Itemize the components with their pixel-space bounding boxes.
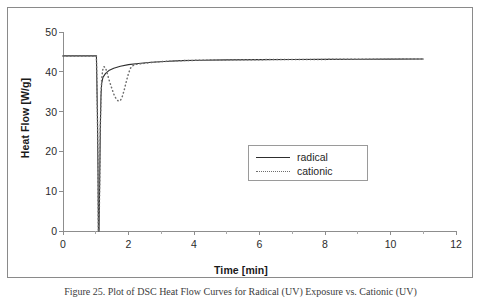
plot-area: 01020304050 024681012: [63, 32, 456, 231]
x-axis-title: Time [min]: [8, 264, 474, 276]
series-paths: [63, 56, 423, 231]
x-tick-label: 0: [60, 238, 66, 250]
axis-lines: [63, 32, 456, 231]
y-axis-title: Heat Flow [W/g]: [19, 53, 31, 183]
series-line-cationic: [63, 56, 423, 231]
y-tick-label: 30: [45, 106, 57, 118]
legend-swatch-dotted-icon: [256, 171, 290, 172]
series-line-radical: [63, 56, 423, 231]
plot-svg: [63, 32, 456, 231]
legend-label-cationic: cationic: [297, 165, 333, 177]
legend-label-radical: radical: [297, 151, 328, 163]
x-tick-label: 10: [385, 238, 397, 250]
x-tick-label: 6: [257, 238, 263, 250]
x-tick-label: 8: [322, 238, 328, 250]
figure-caption: Figure 25. Plot of DSC Heat Flow Curves …: [0, 286, 481, 297]
y-tick-label: 10: [45, 185, 57, 197]
x-tick-label: 12: [450, 238, 462, 250]
chart-frame: Heat Flow [W/g] Time [min] 01020304050 0…: [7, 7, 473, 278]
legend-item-cationic: cationic: [256, 164, 333, 178]
figure-container: Heat Flow [W/g] Time [min] 01020304050 0…: [0, 0, 481, 298]
legend-swatch-solid-icon: [256, 157, 290, 158]
tick-marks: [59, 32, 456, 235]
chart-legend: radical cationic: [248, 145, 368, 181]
y-tick-label: 40: [45, 66, 57, 78]
y-tick-label: 0: [51, 225, 57, 237]
x-tick-label: 2: [126, 238, 132, 250]
y-tick-label: 50: [45, 26, 57, 38]
x-tick-label: 4: [191, 238, 197, 250]
y-tick-label: 20: [45, 145, 57, 157]
legend-item-radical: radical: [256, 150, 328, 164]
